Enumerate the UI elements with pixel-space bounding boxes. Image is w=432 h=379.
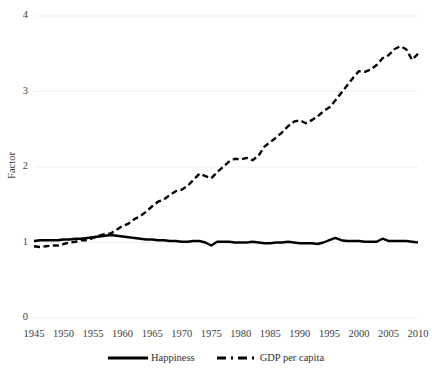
x-tick-label: 2010	[403, 329, 432, 340]
x-tick-label: 1990	[285, 329, 315, 340]
y-tick-label: 3	[8, 86, 28, 97]
x-tick-label: 2005	[373, 329, 403, 340]
y-tick-label: 0	[8, 312, 28, 323]
x-tick-label: 1960	[108, 329, 138, 340]
y-tick-label: 2	[8, 161, 28, 172]
legend-solid-line-icon	[108, 353, 148, 363]
y-tick-label: 4	[8, 10, 28, 21]
chart-container: Factor 43210 194519501955196019651970197…	[0, 0, 432, 379]
x-tick-label: 1945	[19, 329, 49, 340]
series-line-happiness	[34, 235, 418, 246]
x-tick-label: 1955	[78, 329, 108, 340]
y-tick-label: 1	[8, 237, 28, 248]
legend-label-gdp-per-capita: GDP per capita	[260, 353, 324, 364]
chart-legend: Happiness GDP per capita	[0, 353, 432, 364]
x-tick-label: 1970	[167, 329, 197, 340]
x-tick-label: 1965	[137, 329, 167, 340]
x-tick-label: 1950	[49, 329, 79, 340]
line-chart-plot	[0, 0, 432, 379]
x-tick-label: 2000	[344, 329, 374, 340]
gridlines	[34, 16, 418, 318]
x-tick-label: 1995	[314, 329, 344, 340]
legend-item-happiness: Happiness	[108, 353, 195, 364]
x-tick-label: 1985	[255, 329, 285, 340]
x-tick-label: 1975	[196, 329, 226, 340]
legend-dashed-line-icon	[217, 353, 257, 363]
series-line-gdp-per-capita	[34, 46, 418, 247]
x-tick-label: 1980	[226, 329, 256, 340]
legend-item-gdp-per-capita: GDP per capita	[217, 353, 324, 364]
data-series-group	[34, 46, 418, 247]
legend-label-happiness: Happiness	[151, 353, 195, 364]
